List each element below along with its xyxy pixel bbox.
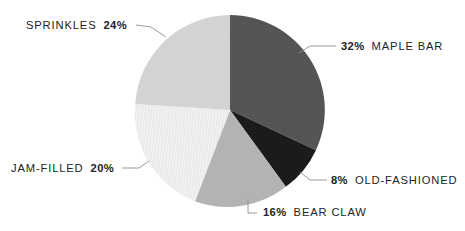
leader-line-jam-filled <box>122 161 149 168</box>
slice-label-sprinkles: SPRINKLES24% <box>26 18 127 32</box>
slice-label-bear-claw-percent: 16% <box>263 206 287 218</box>
slice-label-maple-bar-name: MAPLE BAR <box>372 40 444 52</box>
slice-label-sprinkles-name: SPRINKLES <box>26 19 96 31</box>
pie-chart-figure: SPRINKLES24% 32%MAPLE BAR 8%OLD-FASHIONE… <box>0 0 465 231</box>
pie-chart-canvas <box>0 0 465 231</box>
slice-label-old-fashioned: 8%OLD-FASHIONED <box>331 173 457 187</box>
pie-slice-sprinkles <box>135 15 230 110</box>
leader-line-sprinkles <box>136 25 166 37</box>
leader-line-old-fashioned <box>300 172 327 180</box>
slice-label-jam-filled-percent: 20% <box>91 162 115 174</box>
slice-label-jam-filled: JAM-FILLED20% <box>11 161 114 175</box>
slice-label-maple-bar-percent: 32% <box>341 40 365 52</box>
slice-label-sprinkles-percent: 24% <box>103 19 127 31</box>
slice-label-old-fashioned-percent: 8% <box>331 174 348 186</box>
slice-label-bear-claw: 16%BEAR CLAW <box>263 205 367 219</box>
slice-label-jam-filled-name: JAM-FILLED <box>11 162 84 174</box>
slice-label-maple-bar: 32%MAPLE BAR <box>341 39 443 53</box>
slice-label-old-fashioned-name: OLD-FASHIONED <box>355 174 457 186</box>
slice-label-bear-claw-name: BEAR CLAW <box>294 206 367 218</box>
